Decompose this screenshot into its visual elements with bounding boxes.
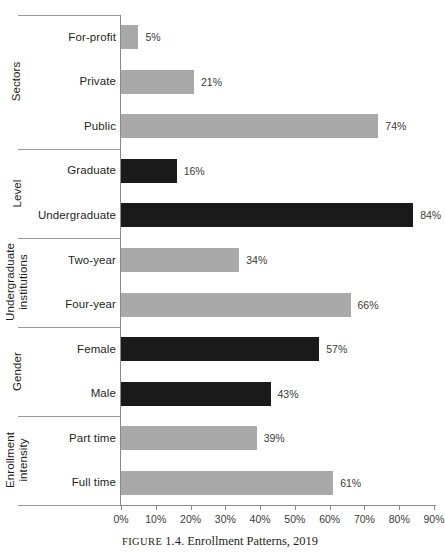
bar-value-label: 21% <box>201 76 222 88</box>
bar <box>121 382 271 406</box>
category-label: Part time <box>69 432 116 445</box>
caption-title: Enrollment Patterns, 2019 <box>187 534 318 548</box>
bar <box>121 293 351 317</box>
bar-value-label: 74% <box>385 120 406 132</box>
bar-value-label: 84% <box>420 209 441 221</box>
category-label: Female <box>77 343 116 356</box>
x-axis-tick <box>225 505 226 510</box>
group-title: Enrollment intensity <box>0 416 34 505</box>
x-axis-tick-label: 10% <box>145 513 166 525</box>
category-label: Undergraduate <box>38 209 116 222</box>
bar <box>121 248 239 272</box>
bar-value-label: 57% <box>326 343 347 355</box>
group-title-label: Sectors <box>11 62 24 102</box>
x-axis-tick <box>399 505 400 510</box>
category-label: Private <box>80 75 117 88</box>
group-title: Level <box>0 149 34 238</box>
bar <box>121 426 257 450</box>
x-axis-tick <box>260 505 261 510</box>
bar <box>121 203 413 227</box>
x-axis-tick <box>364 505 365 510</box>
group-title: Sectors <box>0 15 34 149</box>
bar-value-label: 61% <box>340 477 361 489</box>
bar <box>121 114 378 138</box>
x-axis-tick-label: 40% <box>250 513 271 525</box>
category-label: Graduate <box>67 164 116 177</box>
group-title: Gender <box>0 327 34 416</box>
category-label: For-profit <box>68 31 116 44</box>
category-label: Four-year <box>65 298 116 311</box>
x-axis-tick <box>156 505 157 510</box>
x-axis-tick-label: 20% <box>180 513 201 525</box>
category-label: Two-year <box>68 254 116 267</box>
figure-caption: FIGURE 1.4. Enrollment Patterns, 2019 <box>0 534 440 549</box>
bar-value-label: 5% <box>145 31 160 43</box>
x-axis-tick-label: 50% <box>284 513 305 525</box>
bar <box>121 471 333 495</box>
group-title-label: Level <box>11 179 24 207</box>
x-axis-tick-label: 0% <box>113 513 128 525</box>
x-axis-tick-label: 30% <box>215 513 236 525</box>
group-separator-rule <box>18 505 120 506</box>
group-title-label: Enrollment intensity <box>4 432 30 488</box>
group-title-label: Undergraduate institutions <box>4 243 30 321</box>
x-axis-tick-label: 80% <box>389 513 410 525</box>
group-title-label: Gender <box>11 352 24 391</box>
bar <box>121 159 177 183</box>
x-axis-tick-label: 70% <box>354 513 375 525</box>
caption-figure-word: FIGURE <box>122 536 162 547</box>
x-axis-tick-label: 90% <box>423 513 444 525</box>
x-axis-tick <box>330 505 331 510</box>
x-axis-tick <box>121 505 122 510</box>
bar-value-label: 34% <box>246 254 267 266</box>
x-axis-tick <box>191 505 192 510</box>
bar-value-label: 16% <box>184 165 205 177</box>
group-title: Undergraduate institutions <box>0 238 34 327</box>
bar-value-label: 43% <box>278 388 299 400</box>
category-label: Male <box>91 387 116 400</box>
chart-plot-area: SectorsFor-profit5%Private21%Public74%Le… <box>0 0 440 505</box>
category-label: Full time <box>72 476 116 489</box>
bar-value-label: 39% <box>264 432 285 444</box>
category-label: Public <box>84 120 116 133</box>
bar <box>121 70 194 94</box>
x-axis-tick <box>295 505 296 510</box>
bar <box>121 337 319 361</box>
x-axis-tick <box>434 505 435 510</box>
bar-value-label: 66% <box>358 299 379 311</box>
x-axis-tick-label: 60% <box>319 513 340 525</box>
caption-number: 1.4. <box>165 534 184 548</box>
bar <box>121 25 138 49</box>
